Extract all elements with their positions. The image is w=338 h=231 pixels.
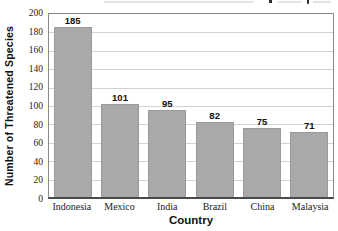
x-tick-label: India: [143, 201, 191, 212]
bar-slot: 185: [49, 14, 96, 197]
x-tick-label: Indonesia: [48, 201, 96, 212]
y-tick-label: 20: [34, 175, 44, 185]
bar-value-label: 82: [209, 110, 220, 121]
plot-area: 18510195827571: [48, 13, 334, 199]
bar-slot: 95: [144, 14, 191, 197]
bar: [54, 27, 92, 197]
cropped-title-remnant: [278, 1, 302, 3]
bar: [101, 104, 139, 197]
cropped-title-remnant: [313, 1, 331, 3]
bar-value-label: 101: [112, 92, 128, 103]
y-tick-label: 80: [34, 120, 44, 130]
y-tick-label: 100: [29, 101, 43, 111]
y-tick-label: 60: [34, 138, 44, 148]
bar-value-label: 71: [304, 120, 315, 131]
bar-value-label: 185: [65, 15, 81, 26]
y-tick-label: 160: [29, 45, 43, 55]
bar: [243, 128, 281, 197]
cropped-title-remnant: [307, 0, 309, 4]
y-axis-tick-labels: 020406080100120140160180200: [0, 13, 44, 199]
x-tick-label: Malaysia: [286, 201, 334, 212]
y-tick-label: 120: [29, 82, 43, 92]
cropped-title-remnant: [104, 1, 254, 3]
bar: [148, 110, 186, 197]
y-tick-label: 200: [29, 8, 43, 18]
cropped-title-remnant: [269, 0, 272, 3]
x-tick-label: China: [239, 201, 287, 212]
y-tick-label: 40: [34, 157, 44, 167]
bar-slot: 101: [96, 14, 143, 197]
bars-container: 18510195827571: [49, 14, 333, 197]
x-axis-tick-labels: IndonesiaMexicoIndiaBrazilChinaMalaysia: [48, 201, 334, 212]
bar-slot: 75: [238, 14, 285, 197]
bar: [196, 122, 234, 197]
bar-value-label: 95: [162, 98, 173, 109]
x-tick-label: Mexico: [96, 201, 144, 212]
y-tick-label: 140: [29, 64, 43, 74]
bar-slot: 82: [191, 14, 238, 197]
y-tick-label: 180: [29, 27, 43, 37]
bar: [290, 132, 328, 197]
bar-slot: 71: [286, 14, 333, 197]
x-tick-label: Brazil: [191, 201, 239, 212]
y-tick-label: 0: [38, 194, 43, 204]
x-axis-title: Country: [48, 214, 334, 226]
bar-value-label: 75: [257, 116, 268, 127]
bar-chart: Number of Threatened Species 02040608010…: [0, 0, 338, 231]
